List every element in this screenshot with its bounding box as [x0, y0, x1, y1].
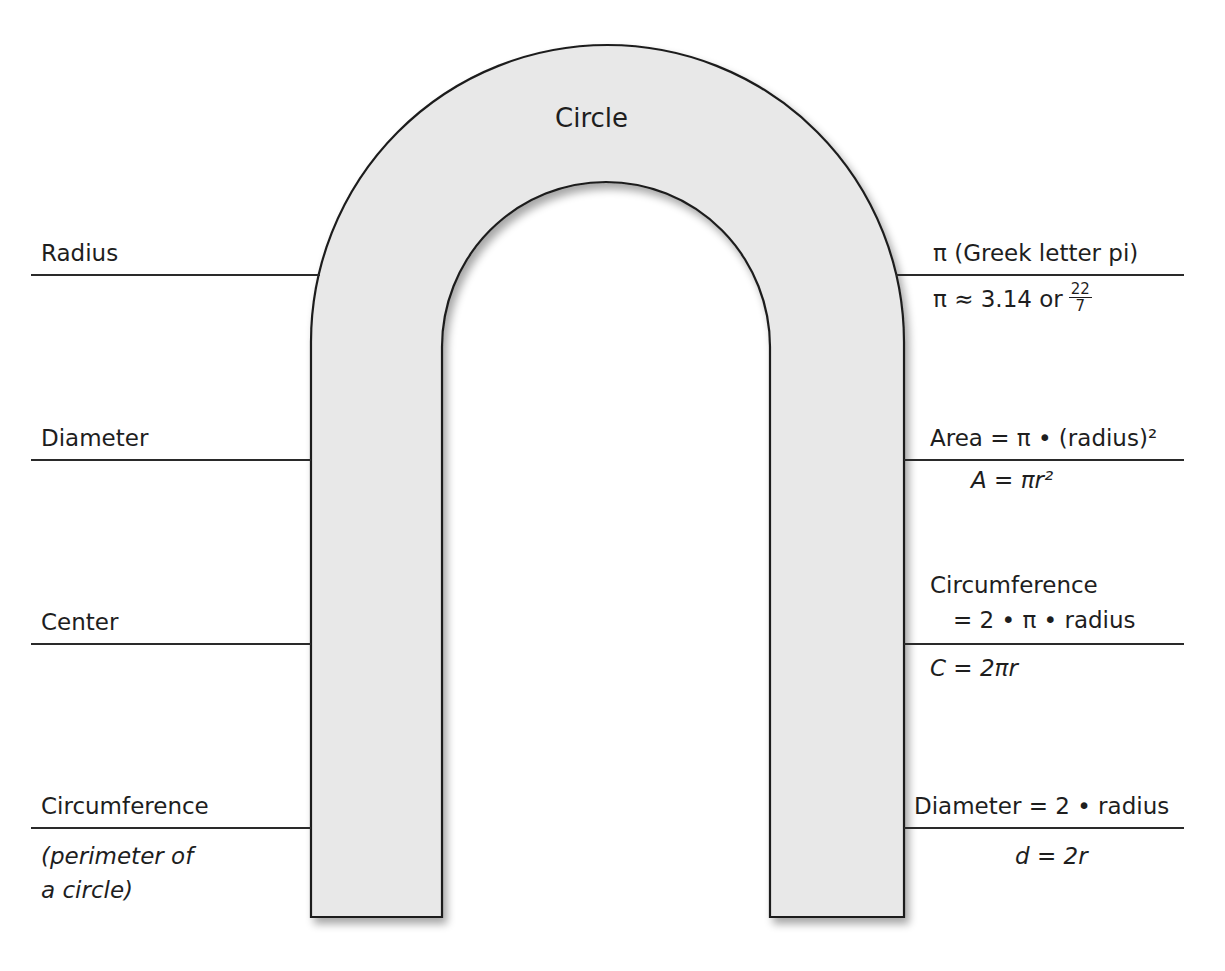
- def-circumference-top-2: = 2 • π • radius: [953, 606, 1136, 634]
- arch-title: Circle: [555, 103, 628, 133]
- fraction-22-7: 227: [1069, 281, 1092, 314]
- def-diameter-top: Diameter = 2 • radius: [914, 792, 1169, 820]
- term-diameter: Diameter: [41, 424, 148, 452]
- def-circumference-rule: [904, 643, 1184, 645]
- term-circumference: Circumference: [41, 792, 209, 820]
- term-circumference-rule: [31, 827, 311, 829]
- circle-vocabulary-diagram: Circle Radius Diameter Center Circumfere…: [0, 0, 1225, 971]
- term-radius: Radius: [41, 239, 118, 267]
- def-circumference-bottom: C = 2πr: [930, 654, 1018, 682]
- term-center: Center: [41, 608, 118, 636]
- def-diameter-rule: [904, 827, 1184, 829]
- def-area-bottom: A = πr²: [971, 466, 1053, 494]
- def-diameter-bottom: d = 2r: [1015, 842, 1088, 870]
- def-pi-bottom: π ≈ 3.14 or227: [933, 284, 1092, 317]
- def-pi-value: π ≈ 3.14 or: [933, 286, 1063, 312]
- def-pi-top: π (Greek letter pi): [933, 239, 1138, 267]
- def-area-rule: [904, 459, 1184, 461]
- term-circumference-note-2: a circle): [41, 876, 133, 904]
- def-circumference-top-1: Circumference: [930, 571, 1098, 599]
- term-circumference-note-1: (perimeter of: [41, 842, 193, 870]
- term-radius-rule: [31, 274, 320, 276]
- def-pi-rule: [896, 274, 1184, 276]
- term-center-rule: [31, 643, 311, 645]
- term-diameter-rule: [31, 459, 311, 461]
- def-area-top: Area = π • (radius)²: [930, 424, 1157, 452]
